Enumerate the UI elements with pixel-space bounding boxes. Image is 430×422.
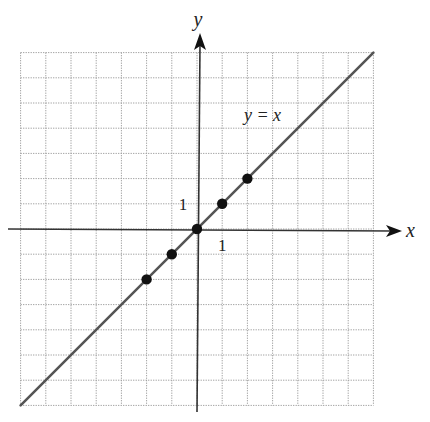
x-tick-label-one: 1 — [218, 236, 227, 255]
data-point — [192, 224, 202, 234]
coordinate-plane-figure: x y 1 1 y = x — [0, 0, 430, 422]
y-tick-label-one: 1 — [179, 195, 188, 214]
y-axis-label: y — [192, 8, 203, 31]
data-point — [217, 199, 227, 209]
data-point — [167, 249, 177, 259]
graph-svg: x y 1 1 y = x — [0, 0, 430, 422]
x-axis-label: x — [405, 219, 415, 241]
line-equation-label: y = x — [242, 105, 281, 125]
data-point — [141, 274, 151, 284]
text-labels: x y 1 1 y = x — [179, 8, 415, 255]
data-point — [242, 173, 252, 183]
